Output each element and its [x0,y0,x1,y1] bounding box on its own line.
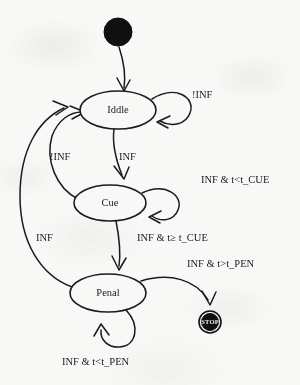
state-label-cue: Cue [102,197,119,208]
state-iddle[interactable]: Iddle [80,91,156,129]
state-label-penal: Penal [96,287,119,298]
transition-cue-to-iddle: !INF [50,106,85,199]
state-penal[interactable]: Penal [70,274,146,312]
state-diagram-page: !INF INF !INF INF & t<t_CUE INF & t≥ t_C… [0,0,300,385]
transition-label-penal-self: INF & t<t_PEN [62,356,130,367]
final-state-label: STOP [201,318,219,325]
final-state-stop[interactable]: STOP [199,311,221,333]
transition-label-cue-to-iddle: !INF [50,151,71,162]
state-label-iddle: Iddle [107,104,129,115]
transition-label-iddle-to-cue: INF [119,151,136,162]
transition-label-penal-to-stop: INF & t>t_PEN [187,258,255,269]
state-cue[interactable]: Cue [74,185,146,221]
transition-cue-self: INF & t<t_CUE [142,174,269,223]
transition-label-penal-to-iddle: INF [36,232,53,243]
transition-iddle-self: !INF [152,89,213,128]
transition-penal-to-iddle: INF [20,101,72,287]
transition-label-cue-to-penal: INF & t≥ t_CUE [137,232,208,243]
initial-state [104,18,132,46]
state-machine-diagram: !INF INF !INF INF & t<t_CUE INF & t≥ t_C… [0,0,300,385]
transition-iddle-to-cue: INF [113,129,136,179]
transition-label-iddle-self: !INF [192,89,213,100]
transition-penal-self: INF & t<t_PEN [62,310,135,367]
transition-start-to-iddle [117,47,130,91]
transition-label-cue-self: INF & t<t_CUE [201,174,269,185]
transition-penal-to-stop: INF & t>t_PEN [141,258,255,305]
